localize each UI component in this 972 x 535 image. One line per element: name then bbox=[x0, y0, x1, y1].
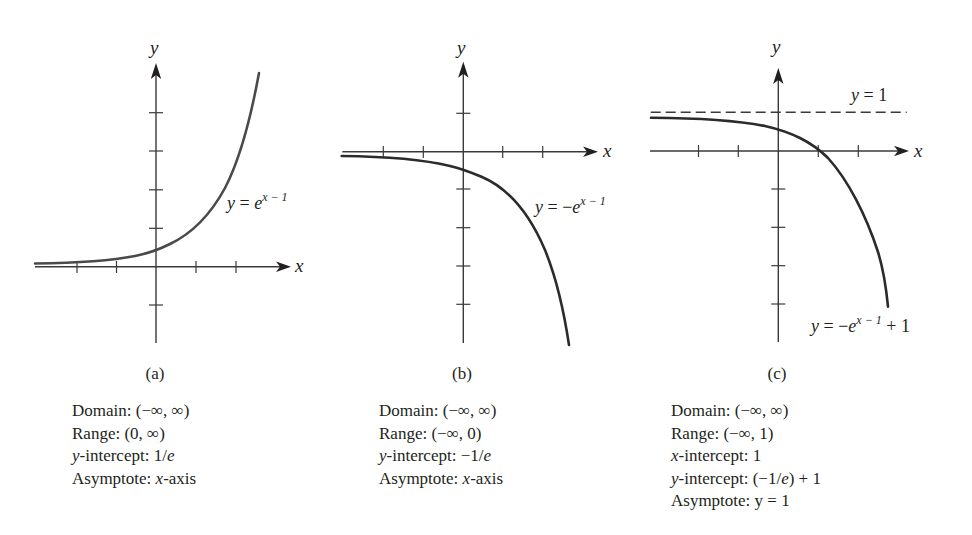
domain-row: Domain: (−∞, ∞) bbox=[379, 400, 503, 423]
caption-b: (b) bbox=[442, 364, 482, 384]
graph-a-x-label: x bbox=[294, 255, 304, 276]
graph-c-x-label: x bbox=[913, 140, 923, 161]
graph-c-asymptote-label: y = 1 bbox=[849, 85, 887, 105]
y-intercept-row: y-intercept: −1/e bbox=[379, 445, 503, 468]
caption-a: (a) bbox=[135, 364, 175, 384]
graph-b-y-label: y bbox=[455, 37, 466, 58]
asymptote-row: Asymptote: x-axis bbox=[379, 468, 503, 491]
graph-b-x-label: x bbox=[602, 140, 612, 161]
graph-b-curve bbox=[342, 156, 569, 345]
y-intercept-row: y-intercept: (−1/e) + 1 bbox=[671, 468, 821, 491]
info-block-b: Domain: (−∞, ∞) Range: (−∞, 0) y-interce… bbox=[379, 400, 503, 490]
info-block-a: Domain: (−∞, ∞) Range: (0, ∞) y-intercep… bbox=[72, 400, 196, 490]
y-intercept-row: y-intercept: 1/e bbox=[72, 445, 196, 468]
asymptote-row: Asymptote: x-axis bbox=[72, 468, 196, 491]
info-block-c: Domain: (−∞, ∞) Range: (−∞, 1) x-interce… bbox=[671, 400, 821, 513]
graph-c: y x y = 1 y = −ex − 1 + 1 bbox=[650, 36, 923, 342]
graph-a-curve bbox=[35, 73, 259, 264]
x-intercept-row: x-intercept: 1 bbox=[671, 445, 821, 468]
graph-c-curve bbox=[651, 118, 888, 307]
range-row: Range: (−∞, 1) bbox=[671, 423, 821, 446]
graph-b-equation: y = −ex − 1 bbox=[533, 194, 606, 217]
graph-c-equation: y = −ex − 1 + 1 bbox=[809, 313, 910, 336]
graph-b: y x y = −ex − 1 bbox=[342, 37, 612, 345]
asymptote-row: Asymptote: y = 1 bbox=[671, 490, 821, 513]
range-row: Range: (−∞, 0) bbox=[379, 423, 503, 446]
domain-row: Domain: (−∞, ∞) bbox=[72, 400, 196, 423]
domain-row: Domain: (−∞, ∞) bbox=[671, 400, 821, 423]
graph-a: y x y = ex − 1 bbox=[35, 37, 304, 343]
range-row: Range: (0, ∞) bbox=[72, 423, 196, 446]
caption-c: (c) bbox=[757, 364, 797, 384]
graph-a-equation: y = ex − 1 bbox=[225, 190, 288, 213]
graph-c-y-label: y bbox=[770, 36, 781, 57]
graph-a-y-label: y bbox=[148, 37, 159, 58]
